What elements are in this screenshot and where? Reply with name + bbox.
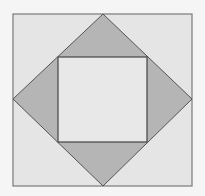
- geometry-diagram: [0, 0, 205, 196]
- inner-square: [58, 57, 147, 142]
